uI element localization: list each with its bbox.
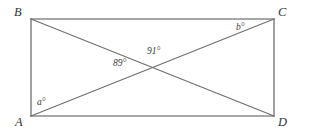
vertex-label-c: C <box>278 6 286 19</box>
angle-label-91: 91° <box>147 47 160 57</box>
vertex-label-a: A <box>15 116 23 129</box>
angle-label-b: b° <box>236 23 245 33</box>
geometry-figure: B C A D a° b° 89° 91° <box>0 0 311 134</box>
figure-canvas <box>0 0 311 134</box>
vertex-label-d: D <box>278 116 287 129</box>
angle-label-a: a° <box>37 98 46 108</box>
vertex-label-b: B <box>14 6 22 19</box>
angle-label-89: 89° <box>113 59 126 69</box>
